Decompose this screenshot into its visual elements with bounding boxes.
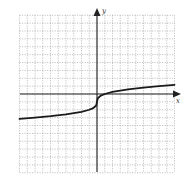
coordinate-graph: x y xyxy=(0,0,191,185)
y-axis-arrow-icon xyxy=(94,8,101,16)
y-axis-label: y xyxy=(101,7,107,15)
x-axis-label: x xyxy=(176,97,180,105)
